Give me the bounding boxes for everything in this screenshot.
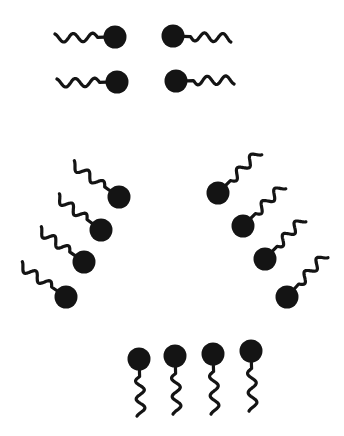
hydrophobic-tail — [272, 221, 306, 251]
hydrophobic-tail — [172, 367, 181, 415]
hydrophilic-head — [207, 182, 230, 205]
hydrophilic-head — [164, 345, 187, 368]
amphiphile-molecule — [41, 227, 95, 274]
hydrophobic-tail — [74, 161, 110, 191]
hydrophilic-head — [232, 215, 255, 238]
hydrophilic-head — [276, 286, 299, 309]
molecule-group-right-diagonal — [207, 154, 329, 308]
amphiphile-molecule — [165, 70, 235, 93]
amphiphile-molecule — [59, 194, 112, 242]
hydrophilic-head — [108, 186, 131, 209]
amphiphile-molecule — [162, 25, 231, 48]
hydrophobic-tail — [22, 262, 57, 291]
hydrophilic-head — [90, 219, 113, 242]
hydrophobic-tail — [59, 194, 92, 224]
hydrophobic-tail — [210, 365, 219, 415]
amphiphile-molecule — [232, 188, 286, 238]
hydrophilic-head — [165, 70, 188, 93]
hydrophobic-tail — [250, 188, 285, 219]
amphiphile-molecule — [240, 340, 263, 412]
hydrophilic-head — [73, 251, 96, 274]
hydrophobic-tail — [294, 257, 328, 289]
hydrophilic-head — [128, 348, 151, 371]
hydrophobic-tail — [248, 362, 257, 412]
amphiphile-molecule — [207, 154, 262, 204]
amphiphile-molecule — [276, 257, 329, 308]
amphiphile-molecule — [22, 262, 77, 309]
hydrophobic-tail — [57, 78, 107, 87]
hydrophobic-tail — [55, 33, 105, 42]
amphiphile-molecule — [57, 71, 129, 94]
hydrophilic-head — [55, 286, 78, 309]
hydrophobic-tail — [184, 33, 231, 42]
hydrophobic-tail — [187, 76, 235, 85]
amphiphile-molecule — [74, 161, 130, 209]
molecule-group-bottom-row — [128, 340, 263, 417]
amphiphile-molecule — [164, 345, 187, 415]
amphiphile-diagram — [0, 0, 344, 436]
hydrophilic-head — [254, 248, 277, 271]
hydrophilic-head — [106, 71, 129, 94]
amphiphile-molecule — [254, 221, 306, 271]
hydrophobic-tail — [225, 154, 261, 186]
amphiphile-molecule — [202, 343, 225, 415]
hydrophilic-head — [104, 26, 127, 49]
molecule-group-top-pairs — [55, 25, 234, 94]
hydrophilic-head — [240, 340, 263, 363]
amphiphile-molecule — [55, 26, 127, 49]
hydrophobic-tail — [41, 227, 75, 256]
hydrophobic-tail — [136, 370, 145, 417]
hydrophilic-head — [162, 25, 185, 48]
amphiphile-molecule — [128, 348, 151, 417]
molecule-group-left-diagonal — [22, 161, 130, 309]
hydrophilic-head — [202, 343, 225, 366]
